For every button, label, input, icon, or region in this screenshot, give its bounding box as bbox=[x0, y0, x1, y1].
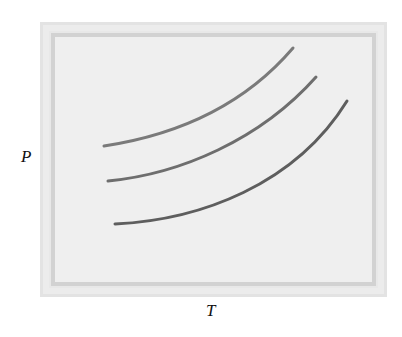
x-axis-label: T bbox=[206, 301, 215, 321]
curve-1 bbox=[104, 48, 293, 146]
y-axis-label: P bbox=[21, 147, 31, 167]
curve-3 bbox=[115, 101, 347, 224]
curves-layer bbox=[0, 0, 402, 337]
curve-2 bbox=[108, 77, 316, 181]
